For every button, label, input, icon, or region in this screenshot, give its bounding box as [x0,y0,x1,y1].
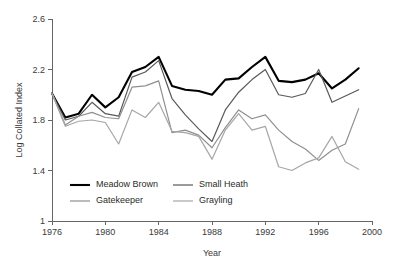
x-axis-tick-label: 1992 [255,227,275,237]
x-axis-title: Year [203,248,221,258]
x-axis-tick-label: 2000 [362,227,382,237]
line-chart: 11.41.82.22.6 19761980198419881992199620… [0,0,397,263]
x-axis-tick-label: 1996 [309,227,329,237]
x-axis-tick-label: 1980 [95,227,115,237]
y-axis-tick-label: 2.2 [32,65,45,75]
legend-label-gatekeeper: Gatekeeper [96,195,143,205]
x-axis-tick-label: 1984 [149,227,169,237]
legend-label-small-heath: Small Heath [199,179,248,189]
series-line-meadow-brown [52,57,359,118]
chart-container: 11.41.82.22.6 19761980198419881992199620… [0,0,397,263]
y-axis-title: Log Collated Index [14,82,24,158]
axis-lines [52,19,372,221]
x-axis-ticks: 1976198019841988199219962000 [42,221,382,237]
y-axis-ticks: 11.41.82.22.6 [32,14,52,226]
y-axis-tick-label: 2.6 [32,14,45,24]
legend-label-meadow-brown: Meadow Brown [96,179,158,189]
series-line-grayling [52,93,359,170]
y-axis-tick-label: 1.8 [32,115,45,125]
chart-legend: Meadow BrownSmall HeathGatekeeperGraylin… [70,179,248,205]
x-axis-tick-label: 1988 [202,227,222,237]
data-series-group [52,57,359,171]
legend-label-grayling: Grayling [199,195,233,205]
y-axis-tick-label: 1.4 [32,166,45,176]
x-axis-tick-label: 1976 [42,227,62,237]
y-axis-tick-label: 1 [40,216,45,226]
